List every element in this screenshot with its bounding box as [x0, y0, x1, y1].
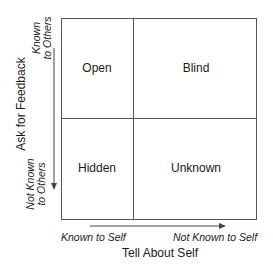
- x-axis-title: Tell About Self: [122, 246, 198, 260]
- x-axis-right-label: Not Known to Self: [173, 232, 257, 243]
- quadrant-unknown: Unknown: [146, 161, 246, 175]
- y-axis-top-label-line2: to Others: [42, 8, 53, 68]
- vertical-divider: [133, 18, 134, 220]
- quadrant-blind: Blind: [146, 61, 246, 75]
- horizontal-arrow-icon: [90, 223, 226, 229]
- y-axis-bottom-label: Not Known to Others: [25, 151, 49, 217]
- quadrant-open: Open: [47, 61, 147, 75]
- quadrant-hidden: Hidden: [47, 161, 147, 175]
- y-axis-top-label: Known to Others: [31, 8, 55, 68]
- grid-frame: [61, 18, 257, 220]
- y-axis-bottom-label-line2: to Others: [36, 151, 47, 217]
- horizontal-divider: [61, 118, 257, 119]
- y-axis-title: Ask for Feedback: [14, 49, 30, 159]
- x-axis-left-label: Known to Self: [61, 232, 126, 243]
